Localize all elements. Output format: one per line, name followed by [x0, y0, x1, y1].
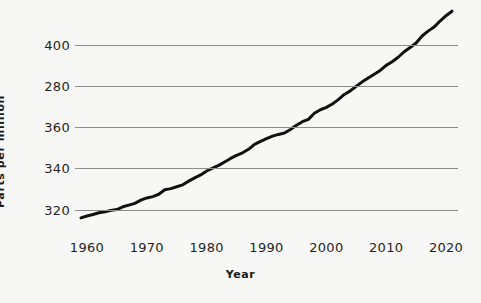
x-axis-tick-label: 2000	[296, 240, 356, 255]
gridline	[75, 86, 458, 87]
gridline	[75, 210, 458, 211]
y-axis-tick-label: 280	[24, 79, 70, 94]
x-axis-tick-label: 1980	[177, 240, 237, 255]
x-axis-tick-label: 1970	[117, 240, 177, 255]
x-axis-tick-labels: 1960197019801990200020102020	[0, 240, 481, 260]
x-axis-tick-label: 1960	[57, 240, 117, 255]
x-axis-tick-label: 1990	[237, 240, 297, 255]
y-axis-tick-label: 320	[24, 202, 70, 217]
gridline	[75, 168, 458, 169]
y-axis-tick-label: 340	[24, 161, 70, 176]
x-axis-tick-label: 2020	[416, 240, 476, 255]
plot-area	[75, 8, 458, 224]
y-axis-tick-label: 360	[24, 120, 70, 135]
data-series-line	[75, 8, 458, 224]
gridline	[75, 127, 458, 128]
y-axis-tick-label: 400	[24, 38, 70, 53]
x-axis-tick-label: 2010	[356, 240, 416, 255]
x-axis-title: Year	[0, 268, 481, 281]
chart-figure: Parts per million 320340360280400 196019…	[0, 0, 481, 303]
gridline	[75, 45, 458, 46]
